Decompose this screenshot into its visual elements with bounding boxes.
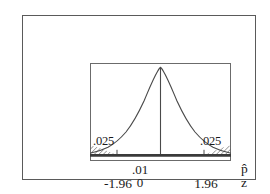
p-hat-axis-label: p̂	[241, 162, 265, 176]
z-tick-positive-1-96: 1.96	[179, 177, 233, 191]
normal-distribution-figure: .025 .025 .01 0 -1.96 1.96 p̂ z	[0, 0, 270, 194]
center-phat-value: .01	[119, 163, 161, 176]
figure-outer-border: .025 .025 .01 0 -1.96 1.96 p̂ z	[22, 15, 256, 180]
left-tail-area-label: .025	[93, 135, 114, 148]
right-tail-area-label: .025	[200, 135, 221, 148]
axis-name-stack: p̂ z	[241, 162, 265, 190]
z-axis-label: z	[241, 176, 265, 190]
z-tick-negative-1-96: -1.96	[89, 177, 147, 191]
